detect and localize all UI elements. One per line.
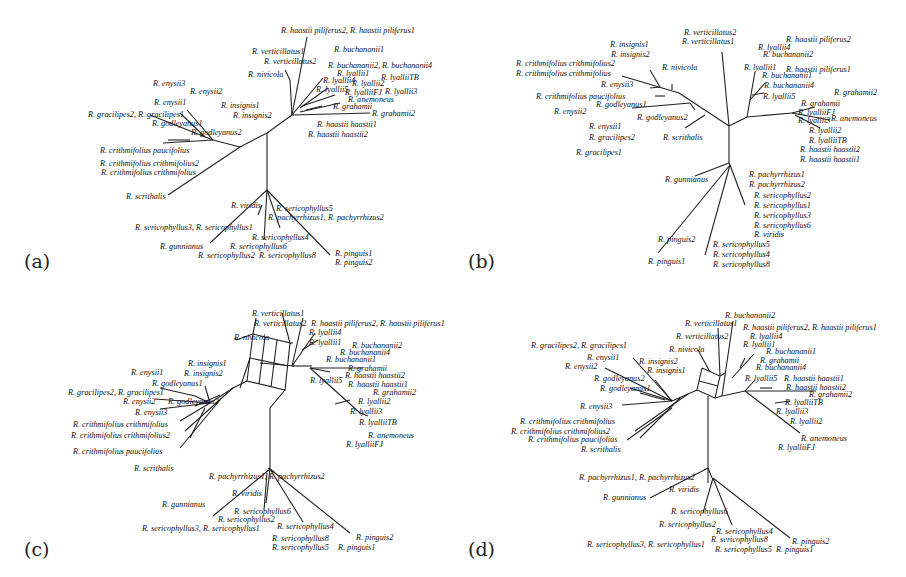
taxon-label: R. pachyrrhizus2 [749, 181, 805, 189]
taxon-label: R. enysii3 [580, 403, 612, 411]
taxon-label: R. haastii piliferus2, R. haastii pilife… [743, 324, 877, 332]
taxon-label: R. gunnianus [665, 176, 708, 184]
taxon-label: R. grahamii2 [372, 110, 415, 118]
taxon-label: R. godleyanus2 [191, 129, 241, 137]
taxon-label: R. crithmifolius paucifolius [100, 147, 189, 155]
taxon-label: R. haastii piliferus2 [786, 36, 851, 44]
taxon-label: R. crithmifolius crithmifolius [516, 70, 611, 78]
taxon-label: R. crithmifolius crithmifolius [73, 421, 168, 429]
taxon-label: R. grahamii [801, 100, 840, 108]
taxon-label: R. haastii haastii2 [345, 372, 405, 380]
taxon-label: R. nivicola [662, 64, 697, 72]
taxon-label: R. lyallii2 [809, 127, 841, 135]
taxon-label: R. sericophyllus2 [659, 521, 716, 529]
taxon-label: R. enysii1 [587, 354, 619, 362]
taxon-label: R. lyallii4 [323, 77, 355, 85]
taxon-label: R. sericophyllus3, R. sericophyllus1 [587, 541, 705, 549]
taxon-label: R. lyallii2 [352, 80, 384, 88]
taxon-label: R. godleyanus2 [637, 114, 687, 122]
taxon-label: R. sericophyllus4 [713, 251, 770, 259]
taxon-label: R. gracilipes2 [589, 134, 635, 142]
taxon-label: R. grahamii2 [834, 89, 877, 97]
taxon-label: R. pachyrrhizus1, R. pachyrrhizus2 [268, 214, 384, 222]
taxon-label: R. viridis [669, 486, 699, 494]
taxon-label: R. crithmifolius paucifolius [73, 448, 162, 456]
taxon-label: R. lyallii3 [776, 408, 808, 416]
taxon-label: R. pinguis1 [648, 258, 685, 266]
taxon-label: R. grahamii2 [373, 389, 416, 397]
taxon-label: R. sericophyllus4 [277, 523, 334, 531]
taxon-label: R. godleyanus1 [596, 101, 646, 109]
taxon-label: R. enysii2 [190, 88, 222, 96]
panel-label-c: (c) [24, 538, 49, 560]
taxon-label: R. insignis1 [188, 360, 227, 368]
taxon-label: R. enysii2 [554, 108, 586, 116]
taxon-label: R. lyallii3 [798, 117, 830, 125]
taxon-label: R. verticillatus1 [682, 38, 734, 46]
taxon-label: R. anemoneus [368, 432, 414, 440]
taxon-label: R. godleyanus2 [168, 398, 218, 406]
taxon-label: R. sericophyllus6 [754, 222, 811, 230]
taxon-label: R. gracilipes1 [576, 149, 622, 157]
taxon-label: R. insignis2 [184, 370, 223, 378]
taxon-label: R. pinguis1 [335, 250, 372, 258]
taxon-label: R. lyallii4 [309, 329, 341, 337]
taxon-label: R. verticillatus2 [264, 58, 316, 66]
taxon-label: R. buchananii1 [762, 72, 812, 80]
taxon-label: R. pinguis2 [335, 259, 372, 267]
taxon-label: R. crithmifolius crithmifolius [520, 418, 615, 426]
taxon-label: R. pinguis1 [776, 546, 813, 554]
taxon-label: R. lyallii5 [310, 377, 342, 385]
taxon-label: R. sericophyllus5 [272, 544, 329, 552]
taxon-label: R. haastii haastii1 [784, 375, 844, 383]
taxon-label: R. crithmifolius paucifolius [528, 436, 617, 444]
taxon-label: R. lyallii2 [358, 398, 390, 406]
taxon-label: R. buchananii1 [326, 356, 376, 364]
taxon-label: R. sericophyllus5 [276, 205, 333, 213]
taxon-label: R. enysii3 [153, 80, 185, 88]
taxon-label: R. haastii haastii1 [800, 156, 860, 164]
taxon-label: R. pinguis1 [338, 544, 375, 552]
taxon-label: R. enysii2 [565, 363, 597, 371]
taxon-label: R. godleyanus1 [152, 120, 202, 128]
taxon-label: R. pinguis2 [658, 236, 695, 244]
taxon-label: R. sericophyllus2 [218, 516, 275, 524]
taxon-label: R. sericophyllus5 [715, 546, 772, 554]
taxon-label: R. crithmifolius crithmifolius2 [100, 160, 199, 168]
taxon-label: R. nivicola [669, 346, 704, 354]
taxon-label: R. enysii3 [601, 81, 633, 89]
taxon-label: R. enysii3 [135, 409, 167, 417]
taxon-label: R. buchananii4 [764, 82, 814, 90]
taxon-label: R. insignis1 [647, 367, 686, 375]
taxon-label: R. gracilipes2, R. gracilipes1 [531, 342, 627, 350]
taxon-label: R. verticillatus2 [254, 320, 306, 328]
taxon-label: R. verticillatus2 [684, 29, 736, 37]
taxon-label: R. lyalliiTB [359, 419, 397, 427]
taxon-label: R. sericophyllus2 [198, 252, 255, 260]
taxon-label: R. sericophyllus3, R. sericophyllus1 [135, 224, 253, 232]
taxon-label: R. insignis1 [610, 41, 649, 49]
taxon-label: R. enysii1 [589, 123, 621, 131]
taxon-label: R. buchananii1 [334, 46, 384, 54]
taxon-label: R. enysii1 [131, 369, 163, 377]
taxon-label: R. lyalliiTB [785, 399, 823, 407]
taxon-label: R. verticillatus2 [676, 333, 728, 341]
taxon-label: R. sericophyllus5 [713, 241, 770, 249]
taxon-label: R. gracilipes2, R. gracilipes1 [88, 111, 184, 119]
taxon-label: R. sericophyllus6 [671, 508, 728, 516]
taxon-label: R. sericophyllus1 [754, 202, 811, 210]
taxon-label: R. crithmifolius crithmifolius2 [71, 432, 170, 440]
taxon-label: R. buchananii1 [766, 348, 816, 356]
taxon-label: R. gunnianus [162, 501, 205, 509]
taxon-label: R. buchananii2 [763, 51, 813, 59]
taxon-label: R. grahamii [333, 103, 372, 111]
taxon-label: R. sericophyllus8 [711, 536, 768, 544]
panel-d: R. buchananii2 R. verticillatus1 R. haas… [450, 288, 903, 576]
taxon-label: R. sericophyllus8 [259, 252, 316, 260]
taxon-label: R. lyallii3 [350, 408, 382, 416]
taxon-label: R. lyallii5 [745, 375, 777, 383]
taxon-label: R. sericophyllus4 [252, 234, 309, 242]
taxon-label: R. lyallii1 [309, 339, 341, 347]
taxon-label: R. haastii haastii2 [308, 131, 368, 139]
taxon-label: R. viridis [231, 202, 261, 210]
